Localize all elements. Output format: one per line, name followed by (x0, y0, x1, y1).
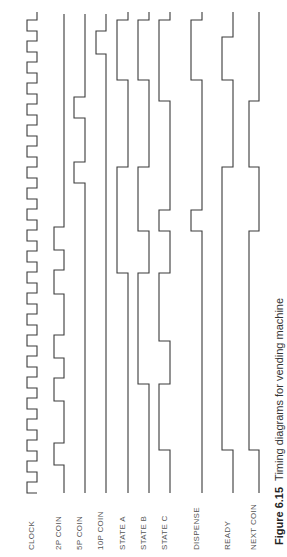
waveform-state-b (138, 12, 149, 493)
timing-diagram: CLOCK2P COIN5P COIN10P COINSTATE ASTATE … (0, 0, 287, 557)
waveform-state-a (117, 12, 128, 493)
signal-label-clock: CLOCK (27, 521, 36, 550)
figure-caption: Figure 6.15Timing diagrams for vending m… (273, 298, 285, 545)
signal-label-2p-coin: 2P COIN (54, 516, 63, 550)
timing-diagram-figure: CLOCK2P COIN5P COIN10P COINSTATE ASTATE … (0, 0, 287, 557)
signal-label-state-a: STATE A (118, 516, 127, 550)
waveform-5p-coin (74, 14, 85, 493)
waveform-10p-coin (96, 14, 106, 493)
signal-label-dispense: DISPENSE (192, 507, 201, 550)
signal-label-state-b: STATE B (139, 516, 148, 550)
signal-labels: CLOCK2P COIN5P COIN10P COINSTATE ASTATE … (27, 504, 258, 550)
waveform-clock (27, 12, 37, 493)
waveform-state-c (159, 12, 170, 493)
waveform-next-coin (249, 12, 259, 493)
waveform-dispense (191, 12, 202, 493)
signal-label-ready: READY (223, 521, 232, 550)
signal-label-10p-coin: 10P COIN (96, 511, 105, 550)
figure-number: Figure 6.15Timing diagrams for vending m… (273, 298, 285, 545)
waveform-ready (222, 12, 233, 493)
signal-label-5p-coin: 5P COIN (75, 516, 84, 550)
signal-label-next-coin: NEXT COIN (249, 504, 258, 550)
waveform-2p-coin (54, 14, 64, 493)
waveforms (27, 12, 259, 493)
signal-label-state-c: STATE C (160, 515, 169, 550)
